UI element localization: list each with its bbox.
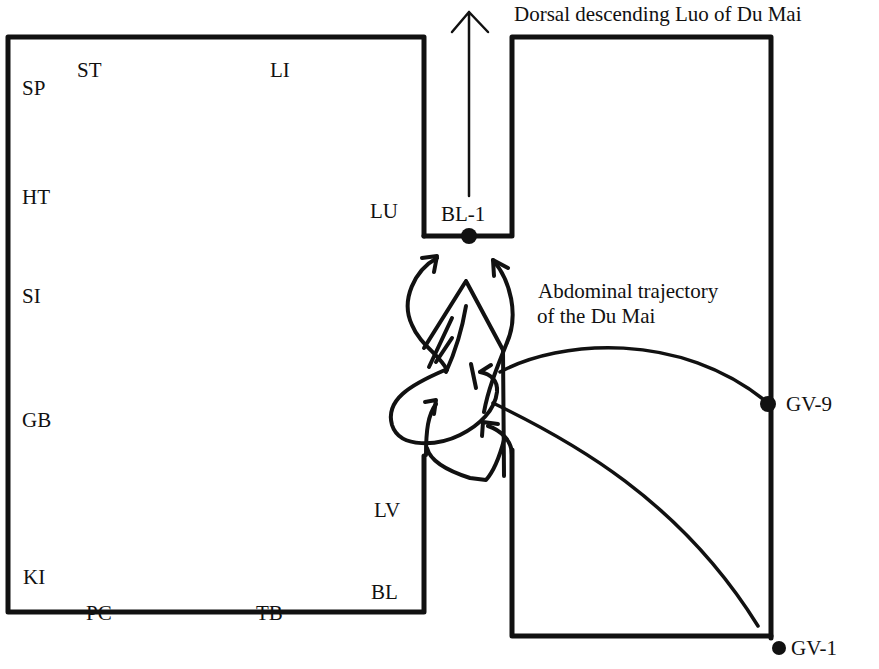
label-sp: SP — [22, 78, 45, 99]
abdominal-trajectory-knot — [391, 256, 513, 480]
gv9-pathway — [500, 348, 768, 403]
label-pc: PC — [86, 603, 112, 624]
bl1-point-marker — [461, 228, 477, 244]
right-body-outline — [512, 450, 771, 636]
label-gv9: GV-9 — [786, 394, 832, 415]
diagram-title: Dorsal descending Luo of Du Mai — [514, 4, 802, 25]
label-si: SI — [22, 286, 41, 307]
label-st: ST — [77, 60, 102, 81]
label-lv: LV — [374, 500, 400, 521]
label-ht: HT — [22, 187, 50, 208]
label-gv1: GV-1 — [791, 638, 837, 659]
du-mai-diagram — [0, 0, 879, 669]
head-notch-outline — [424, 37, 771, 638]
gv1-point-marker — [772, 641, 786, 655]
label-lu: LU — [370, 201, 398, 222]
label-bl: BL — [371, 582, 398, 603]
label-li: LI — [270, 60, 290, 81]
annotation-line-1: Abdominal trajectory — [538, 280, 718, 303]
label-bl1: BL-1 — [441, 204, 485, 225]
label-gb: GB — [22, 410, 51, 431]
left-body-outline — [8, 37, 424, 612]
gv1-pathway — [493, 403, 758, 626]
gv9-point-marker — [760, 396, 776, 412]
upward-arrow-icon — [452, 12, 488, 196]
annotation-line-2: of the Du Mai — [537, 305, 655, 328]
label-tb: TB — [256, 603, 283, 624]
label-ki: KI — [23, 567, 45, 588]
